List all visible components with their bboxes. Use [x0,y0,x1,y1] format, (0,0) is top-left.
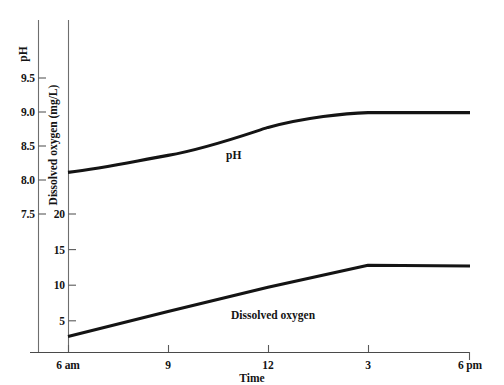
ph-series-label: pH [226,149,241,162]
ph-axis-title: pH [17,46,30,61]
do-axis-tick-labels: 20 15 10 5 [54,208,66,327]
do-axis-ticks [69,214,77,321]
dual-axis-line-chart: 9.5 9.0 8.5 8.0 7.5 pH 20 15 10 5 Dissol… [0,0,504,385]
x-tick-label: 6 pm [458,359,483,372]
x-axis-title: Time [239,372,264,384]
x-tick-label: 3 [365,359,371,371]
x-tick-label: 9 [165,359,171,371]
chart-figure: 9.5 9.0 8.5 8.0 7.5 pH 20 15 10 5 Dissol… [0,0,504,385]
do-series-label: Dissolved oxygen [231,309,316,322]
x-axis-tick-labels: 6 am 9 12 3 6 pm [56,359,482,372]
ph-axis-tick-labels: 9.5 9.0 8.5 8.0 7.5 [21,72,35,220]
do-tick-label: 15 [54,244,66,256]
ph-axis-ticks [39,78,47,214]
ph-tick-label: 8.5 [21,140,35,152]
ph-tick-label: 7.5 [21,208,35,220]
x-tick-label: 12 [262,359,274,371]
do-axis-title: Dissolved oxygen (mg/L) [47,84,60,205]
x-tick-label: 6 am [56,359,80,371]
do-series-line [68,265,470,336]
ph-tick-label: 9.5 [21,72,35,84]
do-tick-label: 20 [54,208,66,220]
do-tick-label: 5 [59,315,65,327]
ph-series-line [68,113,470,173]
ph-tick-label: 8.0 [21,174,35,186]
do-tick-label: 10 [54,279,66,291]
ph-tick-label: 9.0 [21,106,35,118]
